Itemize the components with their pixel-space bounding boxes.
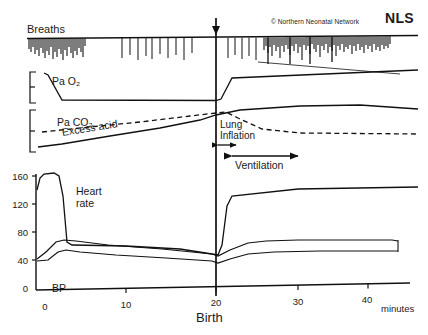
paco2-dashed-line (42, 112, 418, 134)
chart-traces (0, 0, 428, 335)
vitals-axes (32, 174, 410, 293)
breaths-trace (27, 36, 418, 75)
bp-diastolic-curve (37, 250, 398, 263)
bp-systolic-curve (37, 240, 398, 259)
pao2-trace (30, 70, 418, 103)
nls-physiology-chart: Breaths © Northern Neonatal Network NLS … (0, 0, 428, 335)
